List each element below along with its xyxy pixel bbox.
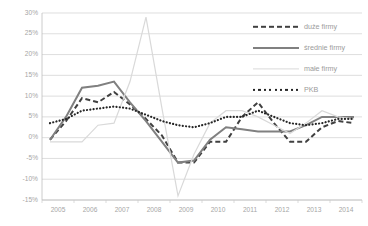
dashed-line-key <box>253 22 299 32</box>
x-axis-tick-label: 2005 <box>44 206 72 213</box>
legend-label: małe firmy <box>304 64 337 73</box>
legend-item-4[interactable]: PKB <box>253 79 318 100</box>
x-axis-tick-label: 2006 <box>76 206 104 213</box>
y-axis-tick-label: 25% <box>25 29 38 36</box>
y-axis-tick-label: -15% <box>23 196 38 203</box>
legend-label: PKB <box>304 85 318 94</box>
y-axis-tick-label: 20% <box>25 50 38 57</box>
legend-label: średnie firmy <box>304 43 345 52</box>
y-axis-tick-label: 30% <box>25 9 38 16</box>
legend-label: duże firmy <box>304 22 337 31</box>
x-tick-marks <box>42 200 362 203</box>
y-axis-tick-label: 10% <box>25 92 38 99</box>
legend-item-3[interactable]: małe firmy <box>253 58 337 79</box>
x-axis-tick-label: 2007 <box>108 206 136 213</box>
x-axis-tick-label: 2011 <box>236 206 264 213</box>
solid-line-key <box>253 43 299 53</box>
x-axis-tick-label: 2009 <box>172 206 200 213</box>
y-axis-tick-label: -10% <box>23 175 38 182</box>
y-axis-tick-label: 0% <box>28 133 38 140</box>
y-axis-tick-label: 15% <box>25 71 38 78</box>
x-axis-tick-label: 2014 <box>332 206 360 213</box>
x-axis-tick-label: 2012 <box>268 206 296 213</box>
y-axis-tick-label: -5% <box>26 154 38 161</box>
line-chart: 30%25%20%15%10%5%0%-5%-10%-15% 200520062… <box>0 0 368 226</box>
legend-item-2[interactable]: średnie firmy <box>253 37 345 58</box>
dotted-line-key <box>253 85 299 95</box>
x-axis-tick-label: 2010 <box>204 206 232 213</box>
y-axis-tick-label: 5% <box>28 112 38 119</box>
legend-item-1[interactable]: duże firmy <box>253 16 337 37</box>
x-axis-tick-label: 2008 <box>140 206 168 213</box>
thin-line-key <box>253 64 299 74</box>
x-axis-tick-label: 2013 <box>300 206 328 213</box>
